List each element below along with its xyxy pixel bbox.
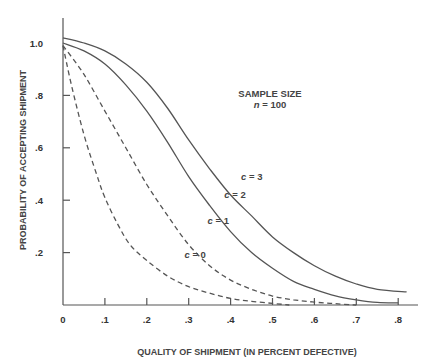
curve-label-symbol: c (241, 171, 249, 182)
curve-label: c = 1 (208, 215, 230, 226)
curve-c3 (63, 38, 407, 292)
x-tick-label: .7 (352, 314, 360, 325)
curve-label-symbol: c (224, 189, 232, 200)
sample-size-number: = 100 (262, 99, 286, 110)
x-tick-label: .1 (101, 314, 110, 325)
x-axis-title: QUALITY OF SHIPMENT (IN PERCENT DEFECTIV… (137, 347, 356, 357)
y-tick-label: .6 (35, 142, 43, 153)
curve-c2 (63, 43, 398, 303)
sample-size-symbol: n (254, 99, 262, 110)
x-axis-ticks: 0.1.2.3.4.5.6.7.8 (60, 298, 402, 325)
y-axis-title: PROBABILITY OF ACCEPTING SHIPMENT (18, 69, 28, 250)
curve-label: c = 0 (185, 249, 206, 260)
x-tick-label: .8 (394, 314, 402, 325)
oc-curve-chart: .2.4.6.81.0 0.1.2.3.4.5.6.7.8 c = 0c = 1… (0, 0, 435, 360)
y-tick-label: .8 (35, 90, 43, 101)
x-tick-label: .5 (269, 314, 278, 325)
curve-label-symbol: c (208, 215, 216, 226)
curve-label: c = 2 (224, 189, 245, 200)
x-tick-label: .2 (143, 314, 151, 325)
y-tick-label: 1.0 (30, 38, 43, 49)
x-tick-label: 0 (60, 314, 65, 325)
x-tick-label: .4 (227, 314, 236, 325)
curve-label-value: = 3 (249, 171, 262, 182)
y-tick-label: .2 (35, 247, 43, 258)
y-axis-ticks: .2.4.6.81.0 (30, 38, 70, 259)
x-tick-label: .6 (310, 314, 318, 325)
curves (63, 38, 407, 305)
curve-c1 (63, 46, 356, 305)
x-tick-label: .3 (185, 314, 193, 325)
curve-label-value: = 2 (232, 189, 245, 200)
plot-area: .2.4.6.81.0 0.1.2.3.4.5.6.7.8 c = 0c = 1… (30, 18, 418, 325)
curve-label-value: = 1 (215, 215, 229, 226)
curve-label: c = 3 (241, 171, 262, 182)
curve-label-symbol: c (185, 249, 193, 260)
y-tick-label: .4 (35, 195, 44, 206)
sample-size-value: n = 100 (254, 99, 287, 110)
curve-label-value: = 0 (192, 249, 205, 260)
sample-size-label: SAMPLE SIZE (238, 88, 301, 99)
